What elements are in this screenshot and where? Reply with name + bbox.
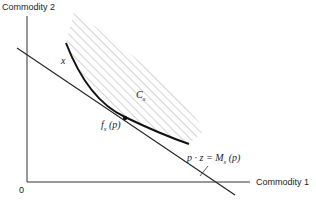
budget-lhs: p · z = M xyxy=(187,152,223,163)
y-axis-label: Commodity 2 xyxy=(2,3,55,12)
budget-arg: (p) xyxy=(229,152,241,163)
budget-equation-label: p · z = Mx (p) xyxy=(187,153,240,165)
set-label-main: C xyxy=(136,89,143,100)
curve-label: x xyxy=(61,56,65,66)
tangent-point xyxy=(123,116,127,120)
set-label: Cx xyxy=(136,90,145,102)
budget-sub: x xyxy=(223,159,226,165)
x-axis-label: Commodity 1 xyxy=(256,178,309,187)
origin-label: 0 xyxy=(19,186,24,195)
demand-point-label: fx (p) xyxy=(101,120,121,132)
point-label-arg: (p) xyxy=(109,119,121,130)
set-label-sub: x xyxy=(143,96,146,102)
point-label-sub: x xyxy=(104,126,107,132)
